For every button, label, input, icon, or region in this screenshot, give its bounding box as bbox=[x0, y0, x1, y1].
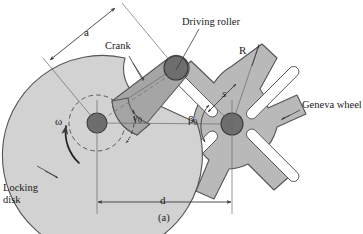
locking-disk-label: Locking disk bbox=[3, 182, 61, 206]
leader-crank bbox=[129, 56, 143, 81]
leader-crank-arrow bbox=[133, 63, 144, 80]
crank-label: Crank bbox=[105, 40, 131, 51]
angle-gamma0-label: γ0 bbox=[133, 112, 142, 124]
figure-caption: (a) bbox=[158, 212, 170, 223]
gamma-subscript: 0 bbox=[138, 116, 142, 125]
angular-velocity-label: ω bbox=[55, 116, 62, 128]
locking-disk-label-line2: disk bbox=[3, 194, 61, 206]
dimension-a-line bbox=[50, 8, 115, 60]
center-distance-d-label: d bbox=[160, 195, 166, 207]
driving-roller-label: Driving roller bbox=[182, 16, 240, 27]
figure-container: a Crank Driving roller R Geneva wheel s … bbox=[0, 0, 363, 234]
beta-subscript: 0 bbox=[194, 118, 198, 127]
beta-symbol: β bbox=[188, 113, 194, 125]
angle-beta0-label: β0 bbox=[188, 114, 197, 126]
locking-disk-label-line1: Locking bbox=[3, 182, 61, 194]
dimension-a-label: a bbox=[84, 27, 89, 39]
slot-length-s-label: s bbox=[222, 88, 226, 100]
geneva-wheel-label: Geneva wheel bbox=[302, 99, 362, 110]
radius-R-label: R bbox=[239, 45, 246, 57]
